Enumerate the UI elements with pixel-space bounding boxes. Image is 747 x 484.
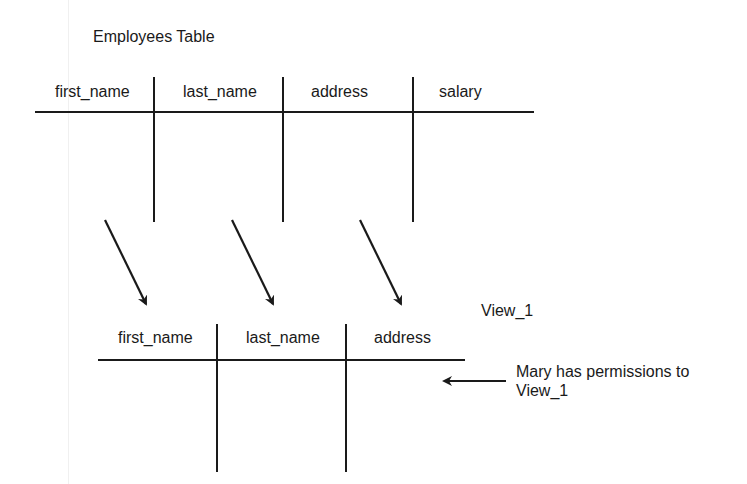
arrow-down-right-icon [105, 220, 146, 304]
view-column-divider [345, 324, 347, 472]
mapping-arrows [0, 0, 747, 484]
view-column-header-last-name: last_name [246, 330, 320, 346]
view-column-header-address: address [374, 330, 431, 346]
view-title: View_1 [481, 303, 533, 319]
view-header-rule [98, 359, 465, 361]
view-column-divider [216, 324, 218, 472]
view-column-header-first-name: first_name [118, 330, 193, 346]
arrow-down-right-icon [232, 220, 273, 304]
permission-note-line-1: Mary has permissions to [516, 364, 689, 380]
arrow-down-right-icon [360, 220, 401, 304]
permission-note-line-2: View_1 [516, 383, 568, 399]
